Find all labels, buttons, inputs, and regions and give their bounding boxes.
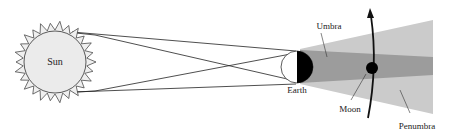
eclipse-diagram: Sun Earth Umbra Moon Penumbra [0,0,450,134]
sun-label: Sun [47,56,63,67]
light-rays [72,32,296,92]
earth-label: Earth [287,85,307,95]
penumbra-label: Penumbra [399,121,436,131]
orbit-arrow-icon [367,8,374,18]
umbra-label: Umbra [317,21,342,31]
moon [366,62,378,74]
moon-label: Moon [339,104,361,114]
earth: Earth [281,51,313,95]
